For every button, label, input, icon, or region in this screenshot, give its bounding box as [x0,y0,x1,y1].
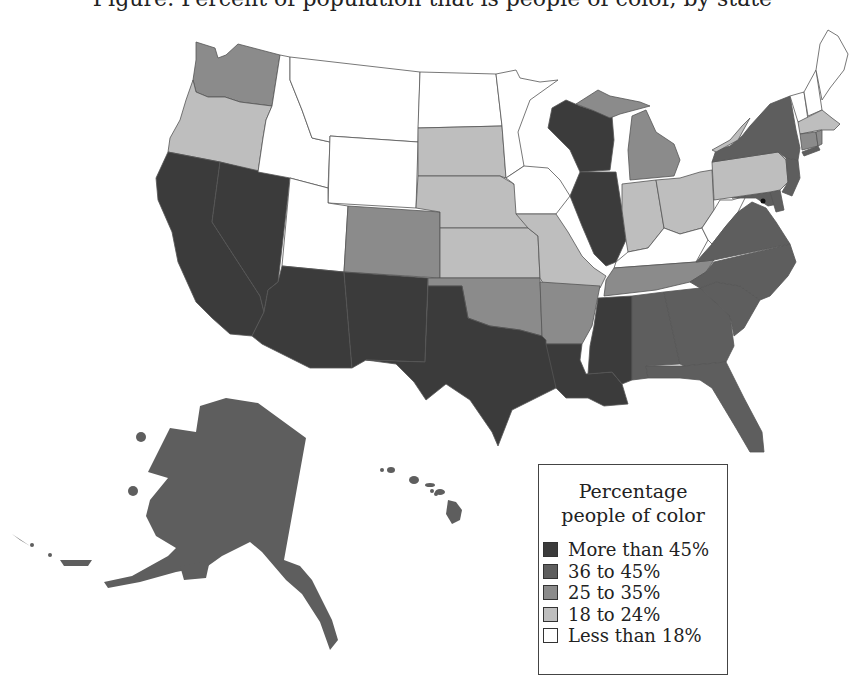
legend-label: Less than 18% [568,625,702,646]
legend-item-36-to-45: 36 to 45% [543,561,727,583]
legend-swatch [543,564,558,579]
legend-swatch [543,585,558,600]
state-NM [344,272,428,368]
state-FL [646,362,764,452]
legend-item-25-to-35: 25 to 35% [543,582,727,604]
state-KS [440,228,540,278]
legend-swatch [543,628,558,643]
state-AR [540,282,600,344]
legend-items: More than 45% 36 to 45% 25 to 35% 18 to … [539,539,727,647]
map-legend: Percentage people of color More than 45%… [538,464,728,675]
state-MI [628,110,680,180]
state-HI [380,467,462,524]
state-ME [816,30,848,100]
state-MT [290,57,420,142]
us-choropleth-map [0,0,865,697]
legend-item-18-to-24: 18 to 24% [543,604,727,626]
state-AK [12,398,338,650]
legend-label: 18 to 24% [568,604,660,625]
legend-swatch [543,607,558,622]
state-WY [328,136,418,208]
legend-label: 25 to 35% [568,582,660,603]
legend-title-line1: Percentage [539,479,727,503]
legend-title-line2: people of color [539,503,727,527]
legend-item-more-than-45: More than 45% [543,539,727,561]
state-CO [344,206,440,278]
state-NY [712,96,800,162]
legend-item-less-than-18: Less than 18% [543,625,727,647]
legend-label: 36 to 45% [568,561,660,582]
legend-swatch [543,542,558,557]
state-ND [418,72,502,128]
dc-star-marker [761,199,766,204]
legend-title: Percentage people of color [539,479,727,527]
legend-label: More than 45% [568,539,709,560]
state-SD [418,126,506,178]
state-IA [506,166,570,214]
